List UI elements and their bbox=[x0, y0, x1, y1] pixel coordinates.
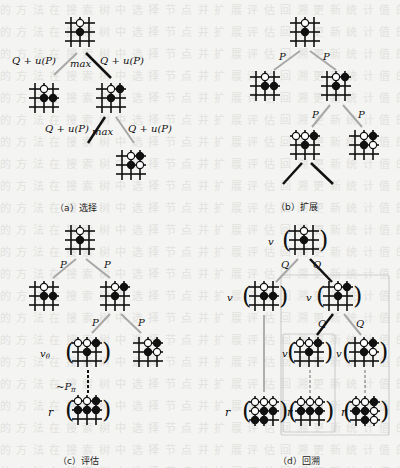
a-max-label-2: max bbox=[92, 126, 113, 137]
black-stone bbox=[314, 339, 321, 346]
white-stone bbox=[260, 398, 267, 405]
b-p-right: P bbox=[322, 51, 330, 62]
white-stone bbox=[76, 227, 83, 234]
caption-c: （c）评估 bbox=[58, 454, 99, 467]
b-expand-left bbox=[283, 163, 302, 184]
c-eval-board bbox=[72, 337, 102, 367]
b-expand-right bbox=[311, 163, 333, 184]
b-left-board bbox=[250, 71, 280, 101]
c-terminal-close-paren: ) bbox=[102, 396, 111, 424]
white-stone bbox=[40, 283, 47, 290]
d-eval-right bbox=[349, 337, 379, 367]
mcts-diagram: Q + u(P)Q + u(P)maxQ + u(P)Q + u(P)maxPP… bbox=[0, 0, 400, 468]
black-stone bbox=[306, 407, 313, 414]
white-stone bbox=[370, 407, 377, 414]
white-stone bbox=[136, 161, 143, 168]
d-right-close-paren: ) bbox=[353, 282, 362, 310]
a-leaf-board bbox=[116, 150, 146, 180]
black-stone bbox=[49, 292, 56, 299]
c-p-right: P bbox=[103, 259, 111, 270]
d-vtheta-right: v bbox=[306, 292, 312, 303]
black-stone bbox=[92, 339, 99, 346]
black-stone bbox=[269, 292, 276, 299]
d-r-right: r bbox=[341, 406, 347, 419]
black-stone bbox=[76, 236, 83, 243]
d-terminal-right bbox=[350, 396, 380, 426]
black-stone bbox=[310, 132, 317, 139]
black-stone bbox=[270, 82, 277, 89]
black-stone bbox=[83, 348, 90, 355]
white-stone bbox=[370, 416, 377, 423]
white-stone bbox=[360, 339, 367, 346]
white-stone bbox=[74, 339, 81, 346]
b-right-board bbox=[321, 71, 351, 101]
white-stone bbox=[76, 19, 83, 26]
d-eval-left-close-paren: ) bbox=[324, 338, 333, 366]
d-q-r2: Q bbox=[356, 318, 364, 329]
d-vtheta-l2: v bbox=[282, 348, 288, 359]
black-stone bbox=[269, 407, 276, 414]
c-terminal-board bbox=[72, 395, 102, 425]
white-stone bbox=[296, 339, 303, 346]
c-p-left: P bbox=[59, 259, 67, 270]
a-edge-label-r2: Q + u(P) bbox=[128, 123, 172, 134]
b-new-board-left bbox=[290, 130, 320, 160]
black-stone bbox=[74, 406, 81, 413]
c-rollout-label: ~Pπ bbox=[56, 381, 76, 394]
d-q-l2: Q bbox=[318, 318, 326, 329]
caption-d: （d）回溯 bbox=[278, 454, 320, 467]
d-eval-right-open-paren: ( bbox=[342, 338, 351, 366]
black-stone bbox=[136, 152, 143, 159]
black-stone bbox=[361, 407, 368, 414]
white-stone bbox=[261, 73, 268, 80]
black-stone bbox=[315, 407, 322, 414]
white-stone bbox=[260, 283, 267, 290]
b-p-left: P bbox=[278, 51, 286, 62]
value-fn-label: vθ bbox=[40, 348, 51, 361]
c-sibling-board bbox=[133, 337, 163, 367]
white-stone bbox=[300, 227, 307, 234]
d-terminal-mid-close-paren: ) bbox=[325, 397, 334, 425]
d-left-close-paren: ) bbox=[279, 282, 288, 310]
white-stone bbox=[40, 85, 47, 92]
white-stone bbox=[297, 398, 304, 405]
c-eval-open-paren: ( bbox=[65, 338, 74, 366]
d-eval-left-open-paren: ( bbox=[287, 338, 296, 366]
black-stone bbox=[144, 348, 151, 355]
white-stone bbox=[361, 398, 368, 405]
black-stone bbox=[369, 132, 376, 139]
black-stone bbox=[92, 397, 99, 404]
black-stone bbox=[251, 416, 258, 423]
white-stone bbox=[83, 397, 90, 404]
d-terminal-right-close-paren: ) bbox=[380, 397, 389, 425]
black-stone bbox=[301, 28, 308, 35]
d-terminal-mid bbox=[295, 396, 325, 426]
d-q-left: Q bbox=[281, 259, 289, 270]
white-stone bbox=[301, 19, 308, 26]
black-stone bbox=[370, 398, 377, 405]
a-right-board bbox=[96, 83, 126, 113]
black-stone bbox=[334, 292, 341, 299]
c-terminal-open-paren: ( bbox=[65, 396, 74, 424]
black-stone bbox=[260, 407, 267, 414]
black-stone bbox=[360, 348, 367, 355]
a-edge-label-l2: Q + u(P) bbox=[45, 123, 89, 134]
black-stone bbox=[153, 339, 160, 346]
white-stone bbox=[107, 85, 114, 92]
white-stone bbox=[369, 348, 376, 355]
d-q-right: Q bbox=[313, 259, 321, 270]
black-stone bbox=[49, 94, 56, 101]
d-r-mid: r bbox=[287, 406, 293, 419]
c-right-board bbox=[100, 281, 130, 311]
a-root-board bbox=[65, 17, 95, 47]
white-stone bbox=[292, 132, 299, 139]
white-stone bbox=[306, 398, 313, 405]
b-new-board-right bbox=[349, 130, 379, 160]
black-stone bbox=[107, 94, 114, 101]
b-p-l2: P bbox=[311, 109, 319, 120]
d-right-board bbox=[323, 281, 353, 311]
d-root-board bbox=[289, 225, 319, 255]
b-edge-left bbox=[274, 51, 300, 70]
black-stone bbox=[116, 85, 123, 92]
white-stone bbox=[74, 397, 81, 404]
